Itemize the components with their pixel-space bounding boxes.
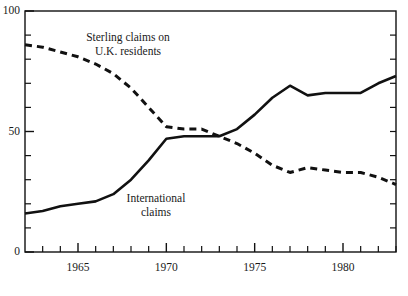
x-tick-label: 1965 <box>56 262 100 274</box>
x-tick-label: 1980 <box>321 262 365 274</box>
series-annotation-line-1: Sterling claims on <box>61 30 195 44</box>
series-annotation-line-2: claims <box>108 205 204 219</box>
series-annotation-sterling-claims: Sterling claims on U.K. residents <box>61 30 195 59</box>
data-series-group <box>25 45 396 214</box>
x-axis-ticks <box>43 243 396 252</box>
chart-figure: 050100 1965197019751980 Sterling claims … <box>0 0 408 296</box>
series-annotation-line-1: International <box>108 191 204 205</box>
series-line-international-claims <box>25 76 396 213</box>
y-tick-label: 0 <box>0 246 20 258</box>
series-line-sterling-claims <box>25 45 396 185</box>
x-tick-label: 1970 <box>144 262 188 274</box>
series-annotation-international-claims: International claims <box>108 191 204 220</box>
series-annotation-line-2: U.K. residents <box>61 44 195 58</box>
y-tick-label: 100 <box>0 5 20 17</box>
y-tick-label: 50 <box>0 126 20 138</box>
x-tick-label: 1975 <box>233 262 277 274</box>
